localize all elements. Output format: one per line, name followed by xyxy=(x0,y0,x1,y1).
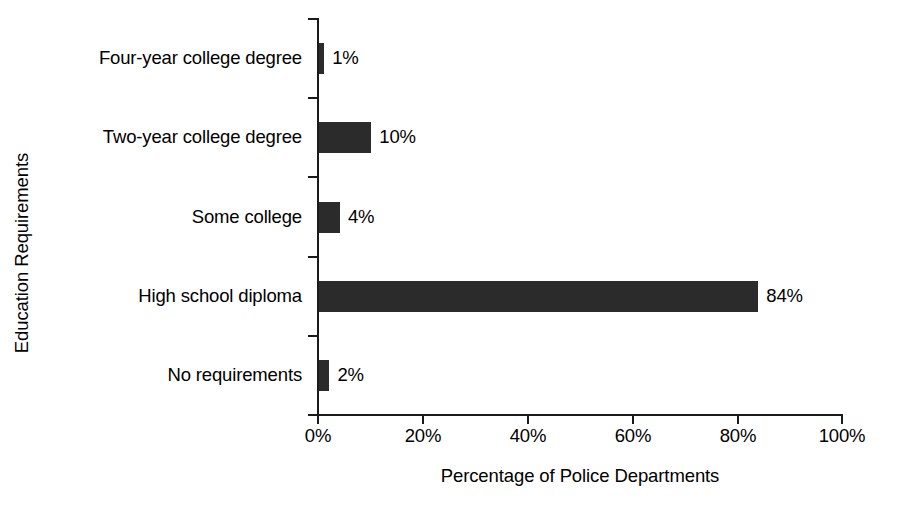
x-axis-tick xyxy=(737,415,739,424)
plot-area: Four-year college degree 1% Two-year col… xyxy=(0,0,900,506)
x-axis-tick-label: 0% xyxy=(273,425,363,447)
bar-row: No requirements 2% xyxy=(0,353,900,397)
y-axis-tick xyxy=(308,176,318,178)
bar-row: High school diploma 84% xyxy=(0,274,900,318)
x-axis-tick-label: 20% xyxy=(378,425,468,447)
y-axis-tick xyxy=(308,256,318,258)
x-axis-title: Percentage of Police Departments xyxy=(318,465,842,487)
x-axis-tick xyxy=(841,415,843,424)
bar-value-label: 84% xyxy=(766,274,803,318)
x-axis-tick xyxy=(317,415,319,424)
bar-row: Four-year college degree 1% xyxy=(0,36,900,80)
x-axis-tick-label: 60% xyxy=(588,425,678,447)
bar-value-label: 2% xyxy=(337,353,363,397)
bar-value-label: 4% xyxy=(348,195,374,239)
x-axis-tick-label: 100% xyxy=(797,425,887,447)
category-label: Some college xyxy=(0,195,308,239)
category-label: Two-year college degree xyxy=(0,115,308,159)
y-axis-tick xyxy=(308,97,318,99)
bar-two-year-college-degree xyxy=(319,122,371,153)
x-axis-tick-label: 40% xyxy=(483,425,573,447)
x-axis-tick xyxy=(422,415,424,424)
x-axis-line xyxy=(317,414,843,416)
x-axis-tick xyxy=(527,415,529,424)
bar-some-college xyxy=(319,202,340,233)
x-axis-tick-label: 80% xyxy=(693,425,783,447)
bar-row: Some college 4% xyxy=(0,195,900,239)
x-axis-tick xyxy=(632,415,634,424)
category-label: High school diploma xyxy=(0,274,308,318)
bar-four-year-college-degree xyxy=(319,43,324,74)
bar-value-label: 10% xyxy=(379,115,416,159)
bar-high-school-diploma xyxy=(319,281,758,312)
bar-chart-figure: Education Requirements Four-year college… xyxy=(0,0,900,506)
category-label: Four-year college degree xyxy=(0,36,308,80)
y-axis-tick xyxy=(308,18,318,20)
bar-row: Two-year college degree 10% xyxy=(0,115,900,159)
y-axis-tick xyxy=(308,335,318,337)
bar-no-requirements xyxy=(319,360,329,391)
bar-value-label: 1% xyxy=(332,36,358,80)
category-label: No requirements xyxy=(0,353,308,397)
